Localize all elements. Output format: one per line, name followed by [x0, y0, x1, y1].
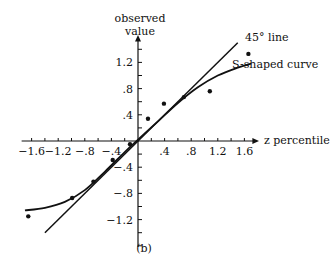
ticks: −1.6−1.2−.8−.4.4.81.21.61.2.8.4−.4−.8−1.…	[18, 49, 253, 246]
data-point	[128, 142, 132, 146]
data-point	[246, 52, 250, 56]
data-point	[111, 158, 115, 162]
y-axis-label-line1: observed	[115, 12, 166, 25]
y-tick-label: .4	[123, 109, 134, 122]
y-tick-label: .8	[123, 83, 134, 96]
data-point	[162, 101, 166, 105]
y-axis-label-line2: value	[124, 25, 155, 38]
line-label-45: 45° line	[245, 31, 289, 44]
y-tick-label: −1.2	[106, 214, 133, 227]
y-tick-label: −.8	[113, 187, 133, 200]
data-point	[146, 117, 150, 121]
x-tick-label: −1.6	[18, 145, 45, 158]
x-tick-label: 1.6	[236, 145, 254, 158]
data-point	[26, 214, 30, 218]
x-axis-label: z percentile	[264, 134, 330, 147]
chart: −1.6−1.2−.8−.4.4.81.21.61.2.8.4−.4−.8−1.…	[0, 0, 336, 263]
data-point	[70, 196, 74, 200]
x-tick-label: −.4	[102, 145, 122, 158]
x-tick-label: −.8	[75, 145, 95, 158]
y-tick-label: 1.2	[116, 56, 134, 69]
x-tick-label: 1.2	[209, 145, 227, 158]
data-point	[91, 179, 95, 183]
x-tick-label: .8	[186, 145, 197, 158]
x-axis-arrow	[252, 138, 259, 144]
x-tick-label: −1.2	[45, 145, 72, 158]
x-tick-label: .4	[159, 145, 170, 158]
axes	[22, 35, 259, 247]
data-point	[182, 95, 186, 99]
data-point	[208, 89, 212, 93]
line-label-s-curve: S-shaped curve	[232, 58, 318, 71]
panel-label: (b)	[136, 242, 152, 255]
